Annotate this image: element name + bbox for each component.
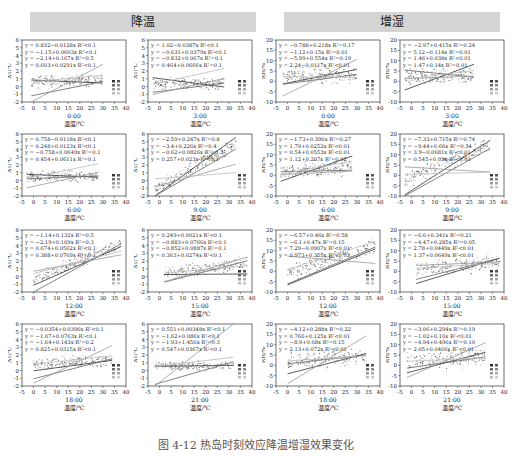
scatter-point [101,360,102,361]
scatter-point [320,70,321,71]
scatter-point [480,268,481,269]
scatter-point [182,368,183,369]
scatter-point [35,182,36,183]
scatter-point [320,173,321,174]
scatter-point [219,82,220,83]
scatter-point [439,356,440,357]
x-tick-label: 20 [76,105,83,111]
scatter-point [182,268,183,269]
scatter-point [285,170,286,171]
x-tick-label: 0 [158,295,162,301]
legend-swatch [117,278,120,281]
scatter-point [213,83,214,84]
scatter-point [48,276,49,277]
scatter-point [445,166,446,167]
scatter-point [462,356,463,357]
scatter-point [75,174,76,175]
scatter-point [312,264,313,265]
scatter-point [35,277,36,278]
scatter-point [172,266,173,267]
legend-swatch [117,372,120,375]
scatter-point [498,265,499,266]
scatter-point [319,366,320,367]
scatter-point [44,364,45,365]
scatter-point [330,167,331,168]
scatter-point [433,164,434,165]
scatter-point [55,365,56,366]
scatter-point [307,77,308,78]
scatter-point [288,74,289,75]
scatter-point [339,356,340,357]
scatter-point [420,267,421,268]
scatter-point [162,86,163,87]
scatter-point [30,175,31,176]
scatter-point [355,353,356,354]
scatter-point [66,267,67,268]
scatter-point [180,369,181,370]
x-tick-label: 30 [477,295,484,301]
scatter-point [433,362,434,363]
scatter-point [487,146,488,147]
x-tick-label: 15 [443,105,450,111]
y-axis-label: RH/% [262,253,266,269]
scatter-point [482,150,483,151]
scatter-point [54,273,55,274]
scatter-point [308,264,309,265]
scatter-point [354,68,355,69]
scatter-point [225,268,226,269]
time-label: 3:00 [445,112,459,119]
x-tick-label: 5 [297,199,301,205]
scatter-point [408,365,409,366]
legend-swatch [490,270,493,273]
scatter-point [332,82,333,83]
panel-降温-900: y = −2.59+0.247x R²=0.8y = −3.4+0.226x R… [134,132,264,230]
x-tick-label: 40 [501,389,508,395]
scatter-point [33,181,34,182]
scatter-point [223,272,224,273]
scatter-point [291,71,292,72]
scatter-point [441,72,442,73]
scatter-point [62,264,63,265]
scatter-point [51,171,52,172]
x-tick-label: 25 [466,105,473,111]
scatter-point [422,69,423,70]
x-tick-label: 10 [307,105,314,111]
y-tick-label: -10 [264,383,273,389]
y-tick-label: 0 [16,274,20,280]
scatter-point [179,275,180,276]
time-label: 6:00 [67,206,81,213]
legend-swatch [495,282,498,285]
scatter-point [426,170,427,171]
scatter-point [315,362,316,363]
legend-swatch [243,364,246,367]
legend-swatch [495,270,498,273]
y-tick-label: -1 [140,375,145,381]
scatter-point [183,83,184,84]
scatter-point [41,82,42,83]
scatter-point [431,358,432,359]
scatter-point [453,358,454,359]
scatter-point [305,268,306,269]
scatter-point [57,172,58,173]
scatter-point [469,78,470,79]
scatter-point [288,79,289,80]
scatter-point [96,253,97,254]
scatter-point [51,271,52,272]
scatter-point [307,353,308,354]
scatter-point [162,88,163,89]
scatter-point [292,78,293,79]
scatter-point [373,253,374,254]
scatter-point [299,271,300,272]
scatter-point [353,358,354,359]
scatter-point [477,361,478,362]
y-tick-label: 0 [142,274,146,280]
y-tick-label: 0 [394,78,398,84]
x-tick-label: 10 [431,105,438,111]
scatter-point [496,264,497,265]
y-tick-label: 20 [390,38,397,43]
scatter-point [231,363,232,364]
scatter-point [340,354,341,355]
scatter-point [357,361,358,362]
scatter-point [423,80,424,81]
y-tick-label: -5 [268,183,274,189]
